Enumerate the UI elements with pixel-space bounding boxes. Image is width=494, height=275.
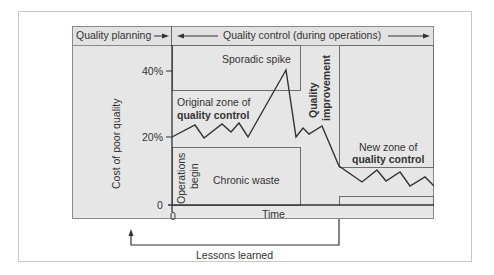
y-tick-40: 40% xyxy=(142,65,163,77)
quality-improvement-label-line1: Quality xyxy=(307,82,319,118)
original-zone-label-line1: Original zone of xyxy=(177,96,251,108)
quality-improvement-label-line2: improvement xyxy=(320,55,332,121)
new-zone-label-line2: quality control xyxy=(352,153,424,165)
operations-begin-label-line1: Operations xyxy=(175,153,187,204)
new-zone-label-line1: New zone of xyxy=(359,141,417,153)
y-axis-label: Cost of poor quality xyxy=(110,99,122,189)
chronic-waste-label: Chronic waste xyxy=(213,174,280,186)
lessons-learned-label: Lessons learned xyxy=(196,249,273,261)
y-tick-0: 0 xyxy=(157,199,163,211)
cost-line xyxy=(172,70,434,186)
original-zone-label-line2: quality control xyxy=(177,109,249,121)
diagram-lines xyxy=(0,0,494,275)
x-axis-label: Time xyxy=(262,208,285,220)
operations-begin-label-line2: begin xyxy=(188,163,200,189)
y-tick-20: 20% xyxy=(142,131,163,143)
sporadic-spike-label: Sporadic spike xyxy=(222,53,291,65)
x-tick-0: 0 xyxy=(170,210,176,222)
